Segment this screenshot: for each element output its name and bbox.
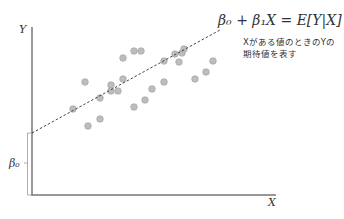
scatter-point (85, 123, 92, 130)
scatter-point (108, 82, 115, 89)
scatter-point (131, 48, 138, 55)
annotation-line-2: 期待値を表す (243, 49, 297, 59)
regression-diagram: Y X β₀ β₀ + β₁X = E[Y|X] Xがある値のときのYの 期待値… (0, 0, 344, 219)
scatter-point (142, 97, 149, 104)
intercept-label: β₀ (8, 157, 20, 170)
scatter-point (149, 86, 156, 93)
scatter-point (131, 104, 138, 111)
scatter-point (138, 48, 145, 55)
scatter-point (176, 59, 183, 66)
scatter-points (70, 46, 217, 130)
scatter-point (161, 79, 168, 86)
y-axis-label: Y (19, 23, 28, 36)
scatter-point (192, 76, 199, 83)
scatter-point (115, 88, 122, 95)
intercept-bracket (24, 133, 32, 195)
scatter-point (97, 116, 104, 123)
diagram-svg: Y X β₀ β₀ + β₁X = E[Y|X] Xがある値のときのYの 期待値… (0, 0, 344, 219)
scatter-point (120, 55, 127, 62)
scatter-point (120, 76, 127, 83)
scatter-point (210, 58, 217, 65)
annotation-line-1: Xがある値のときのYの (243, 37, 335, 47)
scatter-point (82, 79, 89, 86)
scatter-point (172, 51, 179, 58)
regression-line (32, 30, 220, 133)
scatter-point (203, 69, 210, 76)
regression-equation: β₀ + β₁X = E[Y|X] (217, 12, 342, 29)
x-axis-label: X (267, 196, 277, 209)
